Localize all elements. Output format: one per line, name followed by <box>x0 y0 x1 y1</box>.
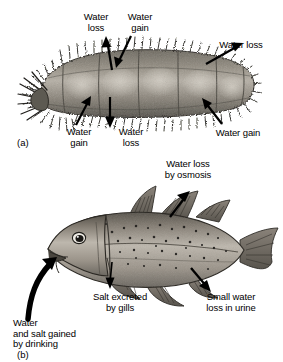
fish-pupil <box>76 235 84 242</box>
label-b-urine: Small water loss in urine <box>191 292 271 313</box>
caudal-fin <box>240 228 278 269</box>
label-b-gills: Salt excreted by gills <box>79 292 161 313</box>
panel-b-tag: (b) <box>17 350 29 361</box>
label-b-drinking: Water and salt gained by drinking <box>13 318 123 350</box>
eye-highlight <box>77 236 79 238</box>
osmoregulation-figure: Water loss Water gain Water loss Water g… <box>0 0 283 362</box>
label-b-osmosis: Water loss by osmosis <box>152 159 224 180</box>
arrow-b-drinking <box>28 264 50 319</box>
chin-barbel <box>56 261 59 273</box>
third-dorsal-fin <box>196 200 230 222</box>
